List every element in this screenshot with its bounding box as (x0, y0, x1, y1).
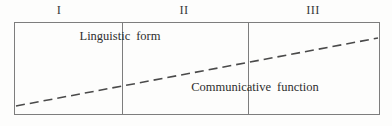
stage-label-ii: II (179, 2, 188, 18)
caption-communicative-function-word-1: Communicative (191, 80, 271, 94)
caption-linguistic-form-word-1: Linguistic (79, 29, 130, 43)
caption-communicative-function: Communicativefunction (191, 80, 319, 95)
stage-label-i: I (57, 2, 62, 18)
caption-linguistic-form-word-2: form (136, 29, 160, 43)
stage-label-iii: III (306, 2, 320, 18)
stage-divider-2 (248, 22, 249, 115)
caption-communicative-function-word-2: function (277, 80, 319, 94)
linguistic-form-communicative-function-diagram: I II III Linguisticform Communicativefun… (0, 0, 392, 126)
diagram-frame (14, 22, 380, 115)
caption-linguistic-form: Linguisticform (79, 29, 160, 44)
